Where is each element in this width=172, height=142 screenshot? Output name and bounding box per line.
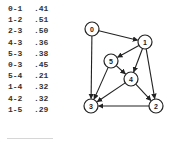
node-3: 3	[84, 99, 98, 113]
node-label: 4	[129, 76, 133, 83]
node-5: 5	[104, 54, 118, 68]
node-1: 1	[138, 35, 152, 49]
graph-nodes: 012345	[84, 22, 163, 113]
node-0: 0	[85, 22, 99, 36]
divider	[7, 138, 53, 139]
edge-4-3	[97, 83, 125, 102]
node-2: 2	[149, 99, 163, 113]
node-label: 5	[109, 58, 113, 65]
node-label: 0	[90, 26, 94, 33]
edge-5-4	[116, 66, 125, 74]
edge-1-4	[134, 49, 143, 72]
edge-1-2	[146, 49, 155, 99]
edge-1-5	[118, 45, 139, 57]
edge-5-3	[94, 67, 108, 99]
edge-0-3	[91, 36, 92, 99]
node-label: 1	[143, 39, 147, 46]
directed-graph: 012345	[0, 0, 172, 142]
node-label: 3	[89, 103, 93, 110]
node-4: 4	[124, 72, 138, 86]
edge-0-1	[99, 31, 138, 41]
node-label: 2	[154, 103, 158, 110]
edge-4-2	[136, 84, 151, 100]
